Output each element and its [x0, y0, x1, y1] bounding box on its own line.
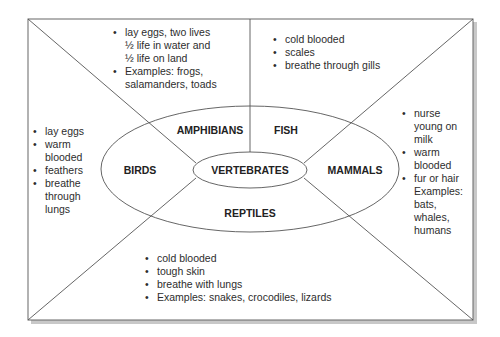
fact: ½ life on land — [112, 52, 217, 65]
fact: lungs — [32, 203, 84, 216]
fact: breathe through gills — [272, 59, 380, 72]
fact: cold blooded — [272, 33, 380, 46]
reptiles-facts: cold blooded tough skin breathe with lun… — [144, 252, 332, 304]
fact: Examples: snakes, crocodiles, lizards — [144, 291, 332, 304]
fact: feathers — [32, 164, 84, 177]
center-label: VERTEBRATES — [211, 164, 288, 176]
label-fish: FISH — [274, 124, 298, 136]
label-reptiles: REPTILES — [224, 207, 275, 219]
fact: ½ life in water and — [112, 39, 217, 52]
fact: blooded — [32, 151, 84, 164]
fact: Examples: — [401, 185, 463, 198]
label-mammals: MAMMALS — [328, 164, 383, 176]
amphibians-facts: lay eggs, two lives ½ life in water and … — [112, 26, 217, 91]
fact: nurse — [401, 107, 463, 120]
mammals-facts: nurse young on milk warm blooded fur or … — [401, 107, 463, 237]
label-amphibians: AMPHIBIANS — [177, 124, 244, 136]
fact: breathe with lungs — [144, 278, 332, 291]
label-birds: BIRDS — [124, 164, 157, 176]
fact: fur or hair — [401, 172, 463, 185]
fact: lay eggs, two lives — [112, 26, 217, 39]
fact: breathe — [32, 177, 84, 190]
fact: milk — [401, 133, 463, 146]
fact: bats, — [401, 198, 463, 211]
fact: young on — [401, 120, 463, 133]
fact: warm — [32, 138, 84, 151]
fact: humans — [401, 224, 463, 237]
fact: Examples: frogs, — [112, 65, 217, 78]
fact: lay eggs — [32, 125, 84, 138]
fact: blooded — [401, 159, 463, 172]
fact: tough skin — [144, 265, 332, 278]
fact: through — [32, 190, 84, 203]
fact: salamanders, toads — [112, 78, 217, 91]
fact: cold blooded — [144, 252, 332, 265]
fish-facts: cold blooded scales breathe through gill… — [272, 33, 380, 72]
birds-facts: lay eggs warm blooded feathers breathe t… — [32, 125, 84, 216]
fact: warm — [401, 146, 463, 159]
fact: whales, — [401, 211, 463, 224]
fact: scales — [272, 46, 380, 59]
